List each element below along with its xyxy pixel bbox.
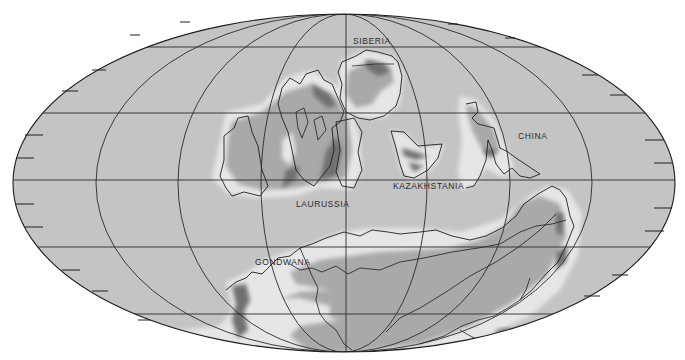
label-laurussia: LAURUSSIA xyxy=(296,199,350,209)
label-china: CHINA xyxy=(518,131,547,141)
label-gondwana: GONDWANA xyxy=(255,257,311,267)
label-kazakhstania: KAZAKHSTANIA xyxy=(393,181,464,191)
label-siberia: SIBERIA xyxy=(353,36,391,46)
paleogeographic-world-map xyxy=(0,0,685,360)
